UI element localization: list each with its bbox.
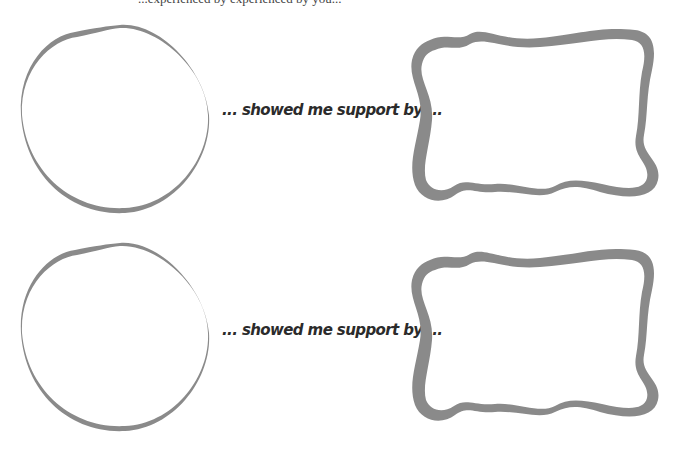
wavy-frame-outline	[400, 20, 675, 220]
support-row-1: ... showed me support by ...	[0, 0, 675, 220]
support-row-2: ... showed me support by ...	[0, 218, 675, 438]
person-circle-outline	[0, 218, 220, 438]
wavy-frame-outline	[400, 240, 675, 440]
person-circle-outline	[0, 0, 220, 220]
